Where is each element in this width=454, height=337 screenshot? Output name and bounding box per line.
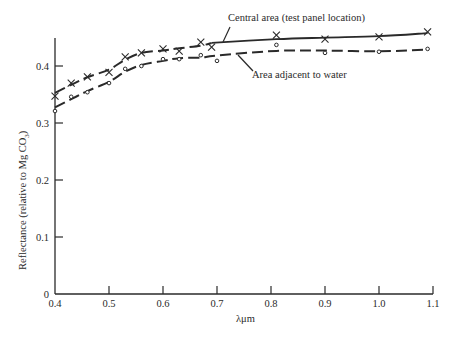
y-axis-title: Reflectance (relative to Mg CO3) [17, 130, 31, 270]
circle-marker [86, 90, 90, 94]
y-axis-title-end: ) [17, 130, 29, 134]
circle-marker [69, 95, 73, 99]
x-tick-label: 0.4 [48, 298, 62, 309]
y-tick-label: 0.2 [36, 175, 49, 186]
circle-marker [199, 53, 203, 57]
x-tick-label: 0.8 [264, 298, 277, 309]
x-tick-label: 0.7 [210, 298, 223, 309]
circle-marker [177, 57, 181, 61]
x-tick-label: 0.5 [102, 298, 115, 309]
central-area-curve-solid [212, 33, 428, 43]
chart-canvas: 00.10.20.30.40.40.50.60.70.80.91.01.1 Ce… [0, 0, 454, 337]
adjacent-annotation-leader [238, 55, 253, 71]
circle-marker [215, 59, 219, 63]
circle-marker [53, 109, 57, 113]
x-tick-label: 0.9 [318, 298, 331, 309]
axes: 00.10.20.30.40.40.50.60.70.80.91.01.1 [36, 38, 440, 309]
circle-marker [426, 47, 430, 51]
circle-marker [140, 64, 144, 68]
x-tick-label: 1.1 [426, 298, 439, 309]
reflectance-chart: 00.10.20.30.40.40.50.60.70.80.91.01.1 Ce… [0, 0, 454, 337]
central-area-annotation: Central area (test panel location) [228, 12, 366, 24]
y-tick-label: 0.3 [36, 118, 49, 129]
y-tick-label: 0.4 [36, 61, 50, 72]
circle-marker [123, 67, 127, 71]
circle-marker [275, 43, 279, 47]
y-axis-title-main: Reflectance (relative to Mg CO [17, 137, 29, 270]
circle-marker [107, 81, 111, 85]
y-tick-label: 0.1 [36, 232, 49, 243]
x-tick-label: 1.0 [372, 298, 385, 309]
adjacent-area-annotation: Area adjacent to water [252, 69, 347, 80]
circle-marker [323, 51, 327, 55]
central-annotation-leader [223, 27, 230, 42]
x-axis-title: λμm [236, 313, 255, 324]
x-tick-label: 0.6 [156, 298, 169, 309]
circle-marker [161, 57, 165, 61]
circle-marker [377, 50, 381, 54]
